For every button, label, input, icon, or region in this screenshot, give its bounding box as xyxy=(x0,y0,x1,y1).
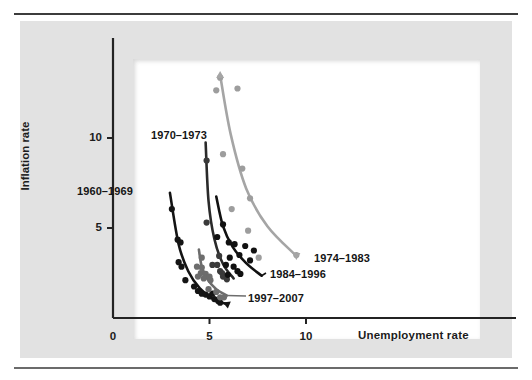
y-tick-label: 5 xyxy=(72,221,102,233)
series-label-1974-1983: 1974–1983 xyxy=(314,252,370,264)
series-label-1984-1996: 1984–1996 xyxy=(270,268,326,280)
x-tick-label: 10 xyxy=(286,330,326,342)
series-label-1960-1969: 1960–1969 xyxy=(77,185,133,197)
x-axis-label: Unemployment rate xyxy=(358,329,469,341)
figure-container: Inflation rate Unemployment rate 0510510… xyxy=(0,0,532,380)
series-label-1970-1973: 1970–1973 xyxy=(151,129,207,141)
x-tick-label: 5 xyxy=(190,330,230,342)
series-label-1997-2007: 1997–2007 xyxy=(248,292,304,304)
x-tick-label: 0 xyxy=(93,330,133,342)
y-tick-label: 10 xyxy=(72,131,102,143)
bottom-rule xyxy=(14,367,518,369)
top-rule xyxy=(14,13,518,15)
y-axis-label: Inflation rate xyxy=(19,111,31,201)
plot-area xyxy=(133,59,480,339)
